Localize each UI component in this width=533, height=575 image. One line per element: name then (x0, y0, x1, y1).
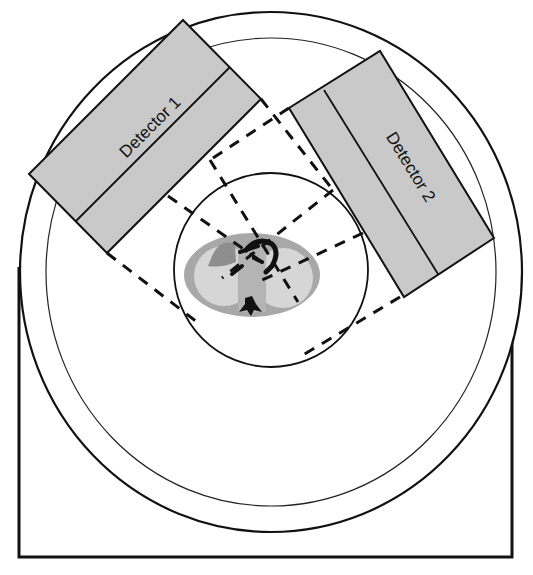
torso-phantom (184, 233, 320, 317)
spect-gantry-diagram: Detector 1 Detector 2 (0, 0, 533, 575)
